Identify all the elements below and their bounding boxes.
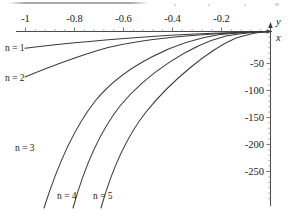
x-axis-tick-labels: -1 -0.8 -0.6 -0.4 -0.2 <box>21 13 230 24</box>
y-tick-label: -200 <box>245 139 264 150</box>
y-tick-label: -50 <box>250 58 264 69</box>
curve-label-n3: n = 3 <box>15 143 35 153</box>
x-tick-label: -0.2 <box>213 13 230 24</box>
x-tick-label: -0.6 <box>115 13 132 24</box>
y-axis-arrow <box>268 22 273 28</box>
y-axis-tick-labels: -50 -100 -150 -200 -250 <box>245 58 264 177</box>
curve-label-n2: n = 2 <box>5 73 25 83</box>
plot-canvas: -1 -0.8 -0.6 -0.4 -0.2 -50 -100 -150 -20… <box>0 0 295 210</box>
x-tick-label: -1 <box>21 13 30 24</box>
y-tick-label: -150 <box>245 112 264 123</box>
x-tick-label: -0.4 <box>164 13 181 24</box>
curve-n3 <box>44 32 266 208</box>
curve-n5 <box>101 32 266 208</box>
curve-label-n4: n = 4 <box>57 191 77 201</box>
curve-n4 <box>73 32 266 208</box>
y-tick-label: -250 <box>245 166 264 177</box>
x-axis-label: x <box>275 32 281 43</box>
curve-label-n5: n = 5 <box>93 191 113 201</box>
x-axis-arrow <box>267 29 273 34</box>
curve-n2 <box>25 32 266 77</box>
y-tick-label: -100 <box>245 85 264 96</box>
y-axis-label: y <box>275 16 281 27</box>
plot-figure: -1 -0.8 -0.6 -0.4 -0.2 -50 -100 -150 -20… <box>0 0 295 210</box>
x-tick-label: -0.8 <box>66 13 83 24</box>
curve-n1 <box>25 32 266 49</box>
curve-label-n1: n = 1 <box>5 43 25 53</box>
